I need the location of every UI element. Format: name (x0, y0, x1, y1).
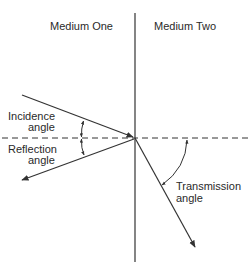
transmission-angle-label-line2: angle (176, 192, 203, 204)
incidence-angle-arc (81, 121, 83, 137)
transmission-angle-arc (162, 140, 187, 185)
incidence-angle-label-line2: angle (28, 121, 55, 133)
transmission-angle-label-line1: Transmission (176, 180, 241, 192)
medium-one-label: Medium One (50, 20, 113, 32)
medium-two-label: Medium Two (154, 20, 216, 32)
reflection-angle-arc (81, 139, 84, 155)
reflection-angle-label-line2: angle (28, 154, 55, 166)
refraction-diagram: Medium One Medium Two Incidence angle Re… (0, 0, 251, 270)
